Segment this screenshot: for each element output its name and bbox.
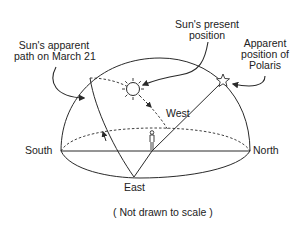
star-icon bbox=[217, 74, 230, 87]
person-icon bbox=[150, 131, 154, 150]
polaris-label: Apparent position of Polaris bbox=[232, 38, 298, 71]
polaris-leader bbox=[233, 76, 265, 86]
west-label: West bbox=[166, 108, 190, 119]
sun-icon bbox=[122, 78, 144, 100]
sun-present-leader bbox=[143, 42, 208, 85]
sun-path-arrow bbox=[103, 132, 106, 141]
horizon-front-edge bbox=[61, 151, 250, 178]
sun-path-label: Sun's apparent path on March 21 bbox=[14, 40, 94, 62]
celestial-sphere-diagram bbox=[0, 0, 299, 228]
south-label: South bbox=[25, 145, 52, 156]
east-to-observer-line bbox=[134, 151, 152, 177]
sky-dome-outline bbox=[61, 58, 250, 151]
caption: ( Not drawn to scale ) bbox=[113, 207, 213, 218]
north-label: North bbox=[253, 145, 279, 156]
east-label: East bbox=[124, 182, 145, 193]
sun-path-leader bbox=[53, 67, 84, 98]
